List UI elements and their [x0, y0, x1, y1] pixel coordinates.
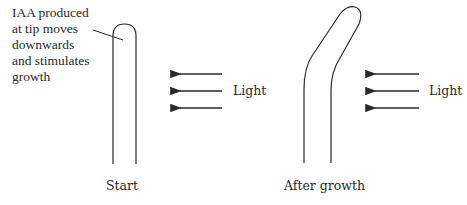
annotation-line: and stimulates: [12, 53, 90, 69]
annotation-line: growth: [12, 69, 90, 85]
annotation-leader-line: [93, 30, 123, 40]
annotation-line: at tip moves: [12, 21, 90, 37]
light-arrows-after: [375, 74, 419, 108]
shoot-start: [113, 24, 136, 164]
iaa-annotation: IAA produced at tip moves downwards and …: [12, 5, 90, 85]
annotation-line: IAA produced: [12, 5, 90, 21]
shoot-after-growth: [304, 7, 361, 163]
phototropism-diagram: IAA produced at tip moves downwards and …: [0, 0, 467, 205]
light-label-start: Light: [233, 83, 266, 98]
panel-label-start: Start: [106, 178, 138, 193]
panel-label-after-growth: After growth: [284, 178, 365, 193]
light-arrows-start: [180, 74, 222, 108]
annotation-line: downwards: [12, 37, 90, 53]
light-label-after: Light: [429, 83, 462, 98]
